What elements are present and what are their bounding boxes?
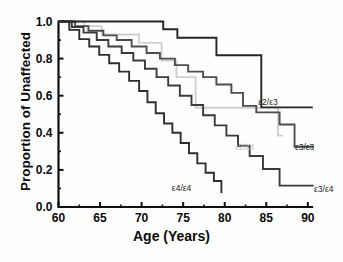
y-axis-title: Proportion of Unaffected	[18, 17, 33, 207]
y-tick-label: 0.6	[23, 89, 53, 103]
y-tick-label: 1.0	[23, 15, 53, 29]
curve-annotation: ε3/ε4	[314, 184, 333, 194]
y-tick-label: 0.0	[23, 200, 53, 214]
survival-curve	[59, 22, 283, 136]
curve-annotation: ε4/ε4	[172, 183, 191, 193]
x-tick-label: 80	[213, 211, 237, 225]
x-tick-label: 85	[254, 211, 278, 225]
curve-annotation: ε2/ε3	[258, 97, 277, 107]
x-tick-label: 70	[130, 211, 154, 225]
y-tick-label: 0.8	[23, 52, 53, 66]
kaplan-meier-survival-figure: Age (Years) Proportion of Unaffected 606…	[0, 0, 343, 262]
x-tick-label: 90	[296, 211, 320, 225]
curve-annotation: ε3/ε3	[295, 142, 314, 152]
y-tick-label: 0.2	[23, 163, 53, 177]
x-axis-title: Age (Years)	[0, 228, 343, 244]
x-tick-label: 65	[88, 211, 112, 225]
curve-annotation: ε2/ε4	[235, 142, 254, 152]
y-tick-label: 0.4	[23, 126, 53, 140]
x-tick-label: 75	[171, 211, 195, 225]
